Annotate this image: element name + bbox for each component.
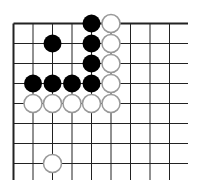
white-stone [44,155,62,173]
white-stone [63,95,81,113]
black-stone [24,75,42,93]
black-stone [83,15,101,33]
black-stone [44,35,62,53]
white-stone [102,15,120,33]
white-stone [102,55,120,73]
white-stone [83,95,101,113]
black-stone [83,55,101,73]
white-stone [44,95,62,113]
black-stone [44,75,62,93]
white-stone [24,95,42,113]
white-stone [102,75,120,93]
white-stone [102,95,120,113]
white-stone [102,35,120,53]
black-stone [63,75,81,93]
black-stone [83,35,101,53]
black-stone [83,75,101,93]
go-board[interactable] [0,0,198,195]
